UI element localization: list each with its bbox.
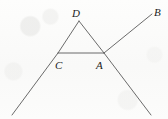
figure-canvas: [0, 0, 168, 119]
ray-right-lower: [104, 53, 151, 115]
ray-left-lower: [12, 53, 58, 115]
vertex-label-d: D: [72, 8, 80, 19]
vertex-label-a: A: [96, 60, 103, 71]
vertex-label-c: C: [55, 60, 62, 71]
triangle-side-DA: [79, 21, 104, 53]
vertex-label-b: B: [154, 7, 161, 18]
ray-AB-upper: [104, 14, 152, 53]
triangle-side-CD: [58, 21, 79, 53]
geometry-figure: D B C A: [0, 0, 168, 119]
